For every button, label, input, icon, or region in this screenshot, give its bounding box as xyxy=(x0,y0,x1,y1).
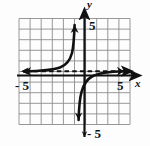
x-axis-left-tick-label: - 5 xyxy=(15,79,29,92)
x-axis-right-tick-label: 5 xyxy=(117,79,124,92)
y-axis-bottom-tick-label: - 5 xyxy=(87,127,101,140)
coordinate-plot xyxy=(0,0,150,146)
y-axis-top-tick-label: 5 xyxy=(89,19,96,32)
x-axis-name-label: x xyxy=(135,78,141,89)
y-axis-name-label: y xyxy=(87,0,92,10)
graph-figure: y x 5 - 5 - 5 5 xyxy=(0,0,150,146)
